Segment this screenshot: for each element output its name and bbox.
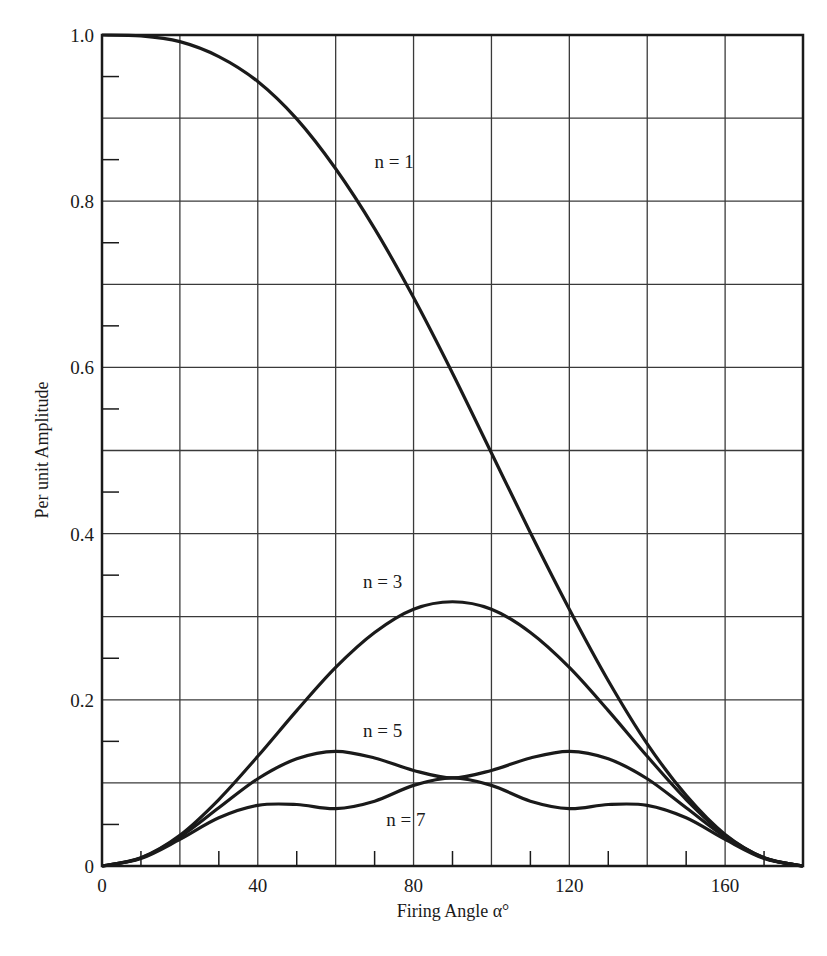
axis-ticks: [102, 77, 764, 866]
y-tick-label: 1.0: [70, 25, 94, 46]
x-tick-label: 120: [555, 875, 584, 896]
series-label: n = 3: [363, 571, 402, 592]
x-tick-label: 160: [711, 875, 740, 896]
y-tick-label: 0: [85, 856, 95, 877]
series-label: n = 5: [363, 720, 402, 741]
x-tick-label: 80: [404, 875, 423, 896]
x-axis-title: Firing Angle α°: [397, 901, 510, 921]
y-tick-label: 0.6: [70, 357, 94, 378]
harmonic-amplitude-chart: 0408012016000.20.40.60.81.0 n = 1n = 3n …: [0, 0, 827, 956]
series-label: n = 7: [386, 809, 425, 830]
grid-lines: [102, 35, 803, 866]
series-curve-2: [102, 602, 803, 866]
y-axis-title: Per unit Amplitude: [32, 381, 52, 518]
series-labels: n = 1n = 3n = 5n = 7: [363, 151, 426, 830]
x-tick-label: 40: [248, 875, 267, 896]
series-label: n = 1: [375, 151, 414, 172]
x-tick-label: 0: [97, 875, 107, 896]
y-tick-label: 0.4: [70, 524, 94, 545]
y-tick-label: 0.2: [70, 690, 94, 711]
y-tick-label: 0.8: [70, 191, 94, 212]
